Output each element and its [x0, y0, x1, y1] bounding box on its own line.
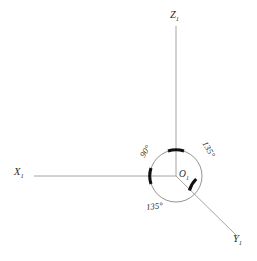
- x-axis-label-subscript: 1: [20, 172, 23, 179]
- y-axis-label-subscript: 1: [239, 239, 242, 246]
- angle-label-y-x: 135°: [146, 201, 164, 212]
- z-axis-label-subscript: 1: [176, 15, 179, 22]
- z-axis-label: Z1: [170, 10, 179, 23]
- origin-label: O1: [179, 170, 189, 182]
- arc-marker-y-icon: [189, 179, 196, 191]
- origin-label-text: O: [179, 169, 186, 179]
- axes-diagram: Z1 X1 Y1 O1 90° 135° 135°: [0, 0, 257, 261]
- arc-marker-z-icon: [168, 150, 184, 151]
- y-axis-label: Y1: [233, 234, 242, 247]
- diagram-canvas: [0, 0, 257, 261]
- x-axis-label: X1: [14, 167, 24, 180]
- y-axis-line: [176, 176, 237, 236]
- origin-label-subscript: 1: [186, 175, 189, 181]
- arc-marker-x-icon: [150, 168, 151, 184]
